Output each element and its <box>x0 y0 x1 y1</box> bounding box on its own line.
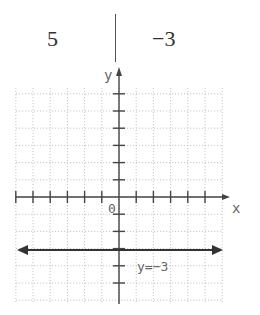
left-arrow-icon <box>17 245 28 255</box>
axis-ticks <box>16 94 205 283</box>
y-axis-label: y <box>104 67 112 83</box>
y-axis-arrow-icon <box>116 67 122 76</box>
x-axis-label: x <box>232 200 240 216</box>
line-label: y=−3 <box>137 259 168 274</box>
right-arrow-icon <box>212 245 223 255</box>
coordinate-plane: y x 0 y=−3 <box>0 0 260 315</box>
origin-label: 0 <box>108 201 116 216</box>
x-axis-arrow-icon <box>222 194 230 200</box>
